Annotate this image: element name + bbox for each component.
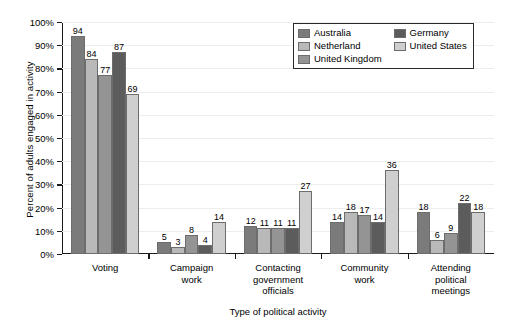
bar-value-label: 77 — [100, 66, 110, 75]
bar-value-label: 84 — [87, 50, 97, 59]
bar[interactable]: 3 — [171, 247, 185, 254]
bar-slot: 12 — [244, 22, 258, 254]
bar[interactable]: 4 — [198, 245, 212, 254]
x-category-label: Contacting government officials — [235, 262, 321, 297]
legend-swatch-icon — [394, 42, 406, 51]
bar[interactable]: 6 — [430, 240, 444, 254]
bar-value-label: 6 — [435, 231, 440, 240]
x-tick-mark — [321, 254, 322, 259]
legend-label: Netherland — [314, 41, 360, 51]
bar-value-label: 4 — [203, 236, 208, 245]
bar-value-label: 69 — [128, 85, 138, 94]
bar-value-label: 87 — [114, 43, 124, 52]
y-tick-mark — [57, 254, 62, 255]
bar-value-label: 14 — [373, 213, 383, 222]
bar-group: 538414Campaign work — [148, 22, 234, 254]
legend-item[interactable]: Germany — [394, 27, 467, 39]
bar-value-label: 5 — [162, 233, 167, 242]
bar[interactable]: 87 — [112, 52, 126, 254]
bar-value-label: 22 — [460, 194, 470, 203]
bar-value-label: 11 — [273, 219, 282, 228]
bar-slot: 3 — [171, 22, 185, 254]
bars: 538414 — [148, 22, 234, 254]
y-tick-label: 20% — [35, 202, 54, 213]
legend-label: United States — [410, 41, 467, 51]
legend-item[interactable]: United Kingdom — [298, 53, 382, 65]
bar[interactable]: 8 — [185, 235, 199, 254]
legend: AustraliaNetherlandUnited Kingdom German… — [293, 23, 474, 69]
y-tick-label: 90% — [35, 40, 54, 51]
y-tick-label: 50% — [35, 133, 54, 144]
bar-value-label: 27 — [300, 182, 310, 191]
x-category-label: Attending political meetings — [408, 262, 494, 297]
bar[interactable]: 14 — [371, 222, 385, 254]
bar[interactable]: 94 — [71, 36, 85, 254]
bar[interactable]: 11 — [271, 228, 285, 254]
bar-group: 9484778769Voting — [62, 22, 148, 254]
bar-slot: 77 — [98, 22, 112, 254]
bar[interactable]: 84 — [85, 59, 99, 254]
legend-swatch-icon — [298, 42, 310, 51]
bar-value-label: 18 — [346, 203, 356, 212]
bar-value-label: 17 — [359, 206, 369, 215]
legend-label: United Kingdom — [314, 54, 382, 64]
bar[interactable]: 9 — [444, 233, 458, 254]
bar[interactable]: 12 — [244, 226, 258, 254]
bar[interactable]: 22 — [458, 203, 472, 254]
y-tick-label: 60% — [35, 109, 54, 120]
bar[interactable]: 27 — [299, 191, 313, 254]
bar[interactable]: 77 — [98, 75, 112, 254]
bar[interactable]: 18 — [344, 212, 358, 254]
bar[interactable]: 36 — [385, 170, 399, 254]
x-category-label: Community work — [321, 262, 407, 285]
bar[interactable]: 17 — [358, 215, 372, 254]
legend-item[interactable]: United States — [394, 40, 467, 52]
legend-swatch-icon — [298, 55, 310, 64]
bar-value-label: 14 — [332, 213, 342, 222]
y-tick-label: 80% — [35, 63, 54, 74]
y-tick-label: 10% — [35, 225, 54, 236]
legend-label: Germany — [410, 28, 449, 38]
bar-slot: 5 — [157, 22, 171, 254]
y-tick-label: 40% — [35, 156, 54, 167]
bar[interactable]: 11 — [285, 228, 299, 254]
bar-value-label: 12 — [246, 217, 256, 226]
x-tick-mark — [408, 254, 409, 259]
legend-swatch-icon — [394, 29, 406, 38]
bar[interactable]: 18 — [471, 212, 485, 254]
legend-column-right: GermanyUnited States — [394, 27, 467, 52]
bar[interactable]: 14 — [212, 222, 226, 254]
bar-value-label: 14 — [214, 213, 224, 222]
x-axis-title: Type of political activity — [62, 306, 494, 317]
legend-item[interactable]: Netherland — [298, 40, 382, 52]
bar-slot: 4 — [198, 22, 212, 254]
bar[interactable]: 11 — [257, 228, 271, 254]
y-tick-label: 100% — [30, 17, 54, 28]
bar-slot: 94 — [71, 22, 85, 254]
bar-value-label: 11 — [287, 219, 296, 228]
bar-slot: 87 — [112, 22, 126, 254]
legend-column-left: AustraliaNetherlandUnited Kingdom — [298, 27, 382, 65]
x-category-label: Campaign work — [148, 262, 234, 285]
y-tick-label: 0% — [40, 249, 54, 260]
bar-slot: 11 — [257, 22, 271, 254]
x-category-label: Voting — [62, 262, 148, 274]
bar-value-label: 94 — [73, 27, 83, 36]
bar-slot: 84 — [85, 22, 99, 254]
bar[interactable]: 5 — [157, 242, 171, 254]
bar-slot: 14 — [212, 22, 226, 254]
bar-value-label: 18 — [418, 203, 428, 212]
bar-value-label: 18 — [473, 203, 483, 212]
y-axis-title: Percent of adults engaged in activity — [24, 25, 35, 255]
bar-value-label: 36 — [387, 161, 397, 170]
bar-chart: Percent of adults engaged in activity 0%… — [0, 0, 506, 329]
x-tick-mark — [148, 254, 149, 259]
bar-value-label: 3 — [175, 238, 180, 247]
bar[interactable]: 69 — [126, 94, 140, 254]
bar-value-label: 11 — [260, 219, 269, 228]
bar[interactable]: 18 — [417, 212, 431, 254]
bar[interactable]: 14 — [330, 222, 344, 254]
bar-value-label: 9 — [448, 224, 453, 233]
x-tick-mark — [235, 254, 236, 259]
legend-item[interactable]: Australia — [298, 27, 382, 39]
